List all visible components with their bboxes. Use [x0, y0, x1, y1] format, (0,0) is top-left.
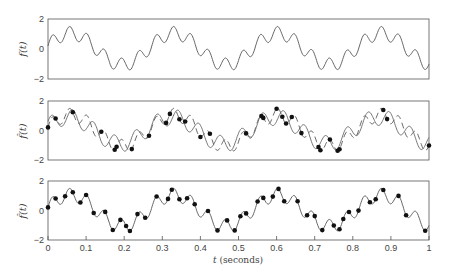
sample-point — [404, 213, 409, 218]
panel-middle: 2 0 −2 f̂(t) — [17, 96, 431, 165]
x-tick-label: 0.6 — [270, 243, 283, 253]
y-axis-label: f(t) — [17, 41, 28, 58]
sample-point — [284, 121, 289, 126]
sample-point — [192, 202, 197, 207]
x-tick-label: 0.5 — [232, 243, 245, 253]
panel-middle-frame — [48, 101, 429, 160]
sample-point — [164, 121, 169, 126]
x-tick-label: 0.1 — [80, 243, 93, 253]
sample-point — [128, 229, 133, 234]
sample-point — [271, 194, 276, 199]
x-axis-unit: (seconds) — [219, 255, 263, 265]
x-tick-label: 1 — [426, 243, 431, 253]
y-axis-label: f̂(t) — [17, 123, 28, 140]
sample-point — [111, 228, 116, 233]
sample-point — [385, 117, 390, 122]
sample-point — [295, 199, 300, 204]
ytick-2: 2 — [39, 96, 44, 106]
sample-point — [320, 228, 325, 233]
sample-point — [84, 193, 89, 198]
sample-point — [373, 197, 378, 202]
sample-point — [53, 116, 58, 121]
x-axis-var: t — [213, 255, 217, 265]
signal-line — [48, 27, 429, 70]
x-tick-label: 0.8 — [347, 243, 360, 253]
sample-point — [198, 135, 203, 140]
sample-point — [341, 217, 346, 222]
sample-point — [290, 115, 295, 120]
sample-point — [276, 187, 281, 192]
sample-point — [124, 224, 129, 229]
sample-point — [53, 196, 58, 201]
sample-point — [244, 211, 249, 216]
sample-point — [225, 218, 230, 223]
sample-point — [118, 218, 123, 223]
ytick-0: 0 — [39, 126, 44, 136]
panel-top-frame — [48, 19, 429, 79]
sample-point — [347, 210, 352, 215]
sample-point — [170, 188, 175, 193]
sample-point — [154, 194, 159, 199]
x-tick-label: 0.3 — [156, 243, 169, 253]
sample-point — [396, 194, 401, 199]
sample-point — [114, 144, 119, 149]
sample-point — [206, 209, 211, 214]
sample-point — [332, 223, 337, 228]
sample-point — [305, 213, 310, 218]
sample-point — [328, 137, 333, 142]
sample-point — [166, 197, 171, 202]
sample-point — [63, 194, 68, 199]
sample-point — [208, 132, 213, 137]
x-tick-label: 0 — [45, 243, 50, 253]
sample-point — [185, 196, 190, 201]
sample-point — [280, 115, 285, 120]
x-tick-label: 0.7 — [308, 243, 321, 253]
sample-point — [183, 119, 188, 124]
reconstruction-line — [48, 110, 429, 152]
x-axis-ticks: 00.10.20.30.40.50.60.70.80.91 — [45, 236, 431, 253]
sample-point — [177, 117, 182, 122]
sample-point — [130, 147, 135, 152]
ytick-0: 0 — [39, 44, 44, 54]
x-tick-label: 0.4 — [194, 243, 207, 253]
sample-point — [261, 196, 266, 201]
sample-point — [312, 214, 317, 219]
sample-point — [143, 215, 148, 220]
sample-point — [46, 125, 51, 130]
sample-point — [135, 212, 140, 217]
sample-point — [147, 133, 152, 138]
sample-point — [232, 228, 237, 233]
ytick-0: 0 — [39, 206, 44, 216]
sample-point — [71, 190, 76, 195]
sample-point — [255, 199, 260, 204]
sample-point — [99, 130, 104, 135]
sample-point — [238, 214, 243, 219]
x-tick-label: 0.2 — [118, 243, 131, 253]
sample-point — [318, 148, 323, 153]
sample-point — [215, 228, 220, 233]
sample-point — [381, 188, 386, 193]
sample-point — [427, 143, 432, 148]
sample-point — [337, 227, 342, 232]
sample-point — [261, 116, 266, 121]
figure: 2 0 −2 f(t) 2 0 −2 f̂(t) 00.10.20.30.40.… — [0, 0, 451, 277]
y-axis-label: f̂(t) — [17, 203, 28, 220]
sample-point — [337, 147, 342, 152]
sample-point — [103, 210, 108, 215]
ytick-neg2: −2 — [34, 74, 44, 84]
sample-point — [177, 197, 182, 202]
panel-bottom: 00.10.20.30.40.50.60.70.80.91 2 0 −2 f̂(… — [17, 176, 432, 265]
sample-point — [381, 108, 386, 113]
sample-point — [71, 110, 76, 115]
ytick-neg2: −2 — [34, 235, 44, 245]
ytick-2: 2 — [39, 14, 44, 24]
sample-point — [282, 199, 287, 204]
x-axis-label: t (seconds) — [213, 255, 263, 265]
sample-point — [423, 228, 428, 233]
sample-point — [91, 211, 96, 216]
sample-point — [78, 200, 83, 205]
ytick-2: 2 — [39, 176, 44, 186]
ytick-neg2: −2 — [34, 155, 44, 165]
sample-point — [368, 200, 373, 205]
x-tick-label: 0.9 — [385, 243, 398, 253]
